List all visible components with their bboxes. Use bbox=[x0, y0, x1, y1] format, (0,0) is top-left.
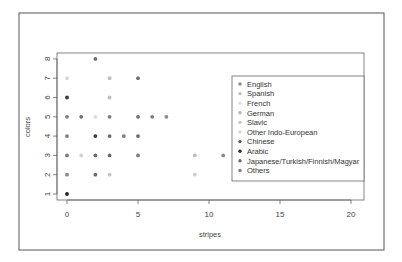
x-tick-label: 15 bbox=[276, 210, 285, 219]
y-tick-label: 4 bbox=[43, 133, 52, 138]
data-point bbox=[94, 57, 98, 61]
data-point bbox=[65, 134, 69, 138]
data-point bbox=[65, 115, 69, 119]
data-point bbox=[65, 154, 69, 158]
x-tick-label: 5 bbox=[136, 210, 141, 219]
data-point bbox=[221, 154, 225, 158]
data-point bbox=[79, 115, 83, 119]
data-point bbox=[94, 115, 98, 119]
legend-item: Other Indo-European bbox=[238, 128, 317, 137]
legend-marker-icon bbox=[238, 169, 241, 172]
legend-label: Spanish bbox=[247, 89, 274, 98]
data-point bbox=[193, 173, 197, 177]
y-tick-label: 6 bbox=[43, 95, 52, 100]
legend-label: Japanese/Turkish/Finnish/Magyar bbox=[247, 157, 360, 166]
y-tick-label: 1 bbox=[43, 191, 52, 196]
legend-marker-icon bbox=[238, 130, 241, 133]
legend-marker-icon bbox=[238, 102, 241, 105]
legend: EnglishSpanishFrenchGermanSlavicOther In… bbox=[232, 76, 364, 181]
data-point bbox=[108, 115, 112, 119]
data-point bbox=[65, 96, 69, 100]
data-point bbox=[94, 173, 98, 177]
y-tick-label: 7 bbox=[43, 75, 52, 80]
legend-label: English bbox=[247, 80, 272, 89]
data-point bbox=[65, 173, 69, 177]
data-point bbox=[79, 154, 83, 158]
data-point bbox=[108, 76, 112, 80]
y-tick-label: 5 bbox=[43, 114, 52, 119]
legend-marker-icon bbox=[238, 121, 241, 124]
y-tick-label: 2 bbox=[43, 172, 52, 177]
legend-label: Slavic bbox=[247, 118, 267, 127]
data-point bbox=[136, 134, 140, 138]
legend-label: Others bbox=[247, 166, 270, 175]
x-tick-label: 10 bbox=[205, 210, 214, 219]
data-point bbox=[94, 154, 98, 158]
data-point bbox=[136, 115, 140, 119]
data-point bbox=[108, 96, 112, 100]
legend-label: Chinese bbox=[247, 137, 275, 146]
y-axis-title: colors bbox=[23, 117, 32, 137]
data-point bbox=[193, 154, 197, 158]
legend-marker-icon bbox=[238, 150, 241, 153]
legend-label: French bbox=[247, 99, 270, 108]
data-point bbox=[150, 115, 154, 119]
x-tick-label: 0 bbox=[65, 210, 70, 219]
y-tick-label: 3 bbox=[43, 153, 52, 158]
data-point bbox=[136, 76, 140, 80]
data-point bbox=[65, 192, 69, 196]
legend-marker-icon bbox=[238, 82, 241, 85]
data-point bbox=[108, 154, 112, 158]
legend-label: Other Indo-European bbox=[247, 128, 317, 137]
data-point bbox=[108, 134, 112, 138]
legend-item: Japanese/Turkish/Finnish/Magyar bbox=[238, 157, 359, 166]
x-axis-title: stripes bbox=[199, 230, 221, 239]
legend-label: Arabic bbox=[247, 147, 269, 156]
legend-label: German bbox=[247, 109, 274, 118]
legend-marker-icon bbox=[238, 159, 241, 162]
data-point bbox=[165, 115, 169, 119]
scatter-figure: 05101520 12345678 EnglishSpanishFrenchGe… bbox=[0, 0, 402, 262]
legend-marker-icon bbox=[238, 111, 241, 114]
legend-marker-icon bbox=[238, 140, 241, 143]
y-tick-label: 8 bbox=[43, 56, 52, 61]
data-point bbox=[108, 173, 112, 177]
data-point bbox=[122, 134, 126, 138]
x-tick-label: 20 bbox=[347, 210, 356, 219]
data-point bbox=[65, 76, 69, 80]
data-point bbox=[136, 154, 140, 158]
legend-marker-icon bbox=[238, 92, 241, 95]
data-point bbox=[94, 134, 98, 138]
